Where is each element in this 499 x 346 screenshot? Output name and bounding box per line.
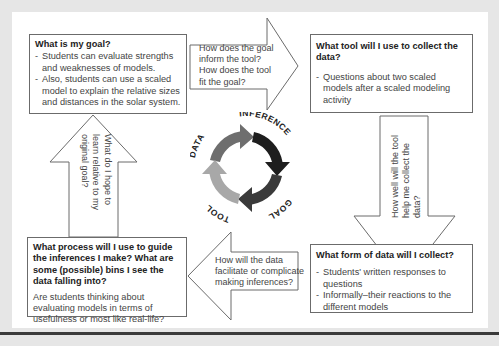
data-form-title: What form of data will I collect? xyxy=(316,250,467,261)
cycle-label-goal: GOAL xyxy=(267,197,295,222)
cycle-label-data: DATA xyxy=(190,132,206,159)
inference-title: What process will I use to guide the inf… xyxy=(33,242,181,288)
goal-list: Students can evaluate strengths and weak… xyxy=(35,51,181,108)
up-arrow-text: What do I hope to learn relative to my o… xyxy=(79,134,113,218)
svg-text:DATA: DATA xyxy=(190,132,206,159)
goal-box: What is my goal? Students can evaluate s… xyxy=(29,34,187,114)
goal-item: Students can evaluate strengths and weak… xyxy=(35,51,181,74)
goal-arrow-segment xyxy=(210,124,254,162)
inference-arrow-segment xyxy=(202,160,240,204)
svg-text:TOOL: TOOL xyxy=(203,203,231,224)
inference-body: Are students thinking about evaluating m… xyxy=(33,292,181,326)
right-arrow-text: How does the goal inform the tool? How d… xyxy=(199,43,275,88)
inquiry-cycle-graphic: GOAL TOOL DATA INFERENCE xyxy=(190,112,302,224)
tool-list: Questions about two scaled models after … xyxy=(316,72,467,106)
data-arrow-segment xyxy=(238,174,282,212)
inference-box: What process will I use to guide the inf… xyxy=(27,237,187,317)
data-form-item: Students' written responses to questions xyxy=(316,267,467,290)
left-arrow-text: How will the data facilitate or complica… xyxy=(215,255,307,289)
data-form-item: Informally–their reactions to the differ… xyxy=(316,290,467,313)
down-arrow-text: How well will the tool help me collect t… xyxy=(390,134,424,218)
svg-text:GOAL: GOAL xyxy=(267,197,295,222)
goal-title: What is my goal? xyxy=(35,39,181,50)
data-form-box: What form of data will I collect? Studen… xyxy=(310,244,473,313)
goal-item: Also, students can use a scaled model to… xyxy=(35,74,181,108)
data-form-list: Students' written responses to questions… xyxy=(316,267,467,313)
tool-arrow-segment xyxy=(252,132,290,176)
cycle-label-tool: TOOL xyxy=(203,203,231,224)
tool-item: Questions about two scaled models after … xyxy=(316,72,467,106)
tool-title: What tool will I use to collect the data… xyxy=(316,41,467,64)
tool-box: What tool will I use to collect the data… xyxy=(310,34,473,113)
